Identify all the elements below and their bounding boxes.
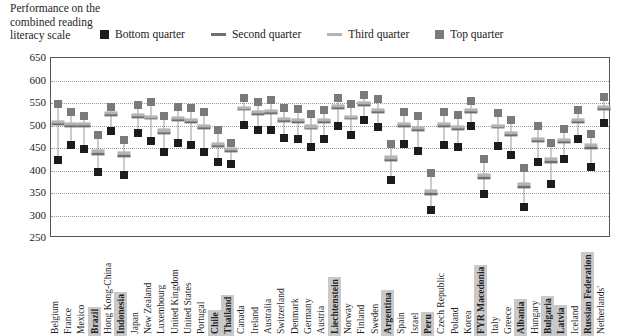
data-column[interactable] xyxy=(491,58,504,238)
data-column[interactable] xyxy=(171,58,184,238)
x-tick-label[interactable]: Iceland xyxy=(568,304,581,336)
x-tick-label[interactable]: Peru xyxy=(421,312,434,336)
marker-bottom-quarter xyxy=(400,140,408,148)
marker-third-quarter xyxy=(424,189,437,192)
x-tick-label[interactable]: Latvia xyxy=(554,305,567,336)
plot-area xyxy=(50,57,610,237)
data-column[interactable] xyxy=(158,58,171,238)
x-tick-label[interactable]: Chile xyxy=(208,310,221,336)
data-column[interactable] xyxy=(64,58,77,238)
x-tick-label[interactable]: Bulgaria xyxy=(541,296,554,336)
data-column[interactable] xyxy=(144,58,157,238)
x-tick-label[interactable]: Albania xyxy=(514,299,527,336)
x-tick-label[interactable]: Greece xyxy=(501,305,514,336)
x-tick-label[interactable]: Argentina xyxy=(381,290,394,336)
x-tick-label[interactable]: Korea xyxy=(461,309,474,336)
x-tick-label[interactable]: Mexico xyxy=(74,303,87,336)
x-tick-label[interactable]: Russian Federation xyxy=(581,252,594,336)
x-tick-label[interactable]: Japan xyxy=(128,310,141,336)
data-column[interactable] xyxy=(318,58,331,238)
data-column[interactable] xyxy=(131,58,144,238)
x-tick-label[interactable]: Israel xyxy=(408,311,421,336)
x-tick-label[interactable]: Ireland xyxy=(248,305,261,336)
x-tick-label[interactable]: Hungary xyxy=(528,298,541,336)
data-column[interactable] xyxy=(118,58,131,238)
legend-third-quarter[interactable]: Third quarter xyxy=(327,28,409,40)
data-column[interactable] xyxy=(504,58,517,238)
marker-third-quarter xyxy=(438,123,451,126)
x-tick-label[interactable]: Netherlands' xyxy=(594,284,607,336)
x-tick-label[interactable]: Portugal xyxy=(194,299,207,336)
data-column[interactable] xyxy=(238,58,251,238)
data-column[interactable] xyxy=(478,58,491,238)
marker-top-quarter xyxy=(160,112,168,120)
data-column[interactable] xyxy=(344,58,357,238)
x-tick-label[interactable]: Thailand xyxy=(221,295,234,336)
data-column[interactable] xyxy=(558,58,571,238)
data-column[interactable] xyxy=(104,58,117,238)
x-tick-label[interactable]: Canada xyxy=(234,303,247,336)
x-tick-label[interactable]: Finland xyxy=(354,303,367,336)
x-tick-label[interactable]: Belgium xyxy=(48,299,61,336)
data-column[interactable] xyxy=(598,58,611,238)
data-column[interactable] xyxy=(251,58,264,238)
data-column[interactable] xyxy=(51,58,64,238)
data-column[interactable] xyxy=(184,58,197,238)
x-tick-label[interactable]: Italy xyxy=(488,314,501,336)
data-column[interactable] xyxy=(424,58,437,238)
data-column[interactable] xyxy=(91,58,104,238)
x-tick-label[interactable]: Germany xyxy=(301,296,314,336)
data-column[interactable] xyxy=(531,58,544,238)
x-tick-label[interactable]: United States xyxy=(181,281,194,336)
data-column[interactable] xyxy=(78,58,91,238)
x-tick-label[interactable]: Australia xyxy=(261,297,274,336)
x-tick-label[interactable]: Poland xyxy=(448,305,461,336)
y-axis-labels: 650600550500450400350300250 xyxy=(0,57,46,237)
data-column[interactable] xyxy=(411,58,424,238)
data-column[interactable] xyxy=(518,58,531,238)
data-column[interactable] xyxy=(304,58,317,238)
x-tick-label[interactable]: Norway xyxy=(341,301,354,336)
marker-bottom-quarter xyxy=(454,143,462,151)
marker-third-quarter xyxy=(198,124,211,127)
data-column[interactable] xyxy=(571,58,584,238)
x-tick-label[interactable]: Hong Kong-China xyxy=(101,261,114,336)
data-column[interactable] xyxy=(438,58,451,238)
data-column[interactable] xyxy=(211,58,224,238)
legend-top-quarter[interactable]: Top quarter xyxy=(435,28,503,40)
legend-second-quarter[interactable]: Second quarter xyxy=(211,28,301,40)
data-column[interactable] xyxy=(544,58,557,238)
x-tick-label[interactable]: Switzerland xyxy=(274,286,287,336)
x-tick-label[interactable]: Luxembourg xyxy=(154,283,167,336)
x-tick-label[interactable]: Liechtenstein xyxy=(328,277,341,336)
data-column[interactable] xyxy=(384,58,397,238)
y-tick-label: 650 xyxy=(2,52,46,62)
x-tick-label[interactable]: Indonesia xyxy=(114,292,127,336)
legend-bottom-quarter[interactable]: Bottom quarter xyxy=(100,28,185,40)
marker-bottom-quarter xyxy=(227,160,235,168)
x-tick-label[interactable]: Sweden xyxy=(368,302,381,336)
data-column[interactable] xyxy=(278,58,291,238)
marker-top-quarter xyxy=(414,112,422,120)
x-tick-label[interactable]: Brazil xyxy=(88,307,101,336)
data-column[interactable] xyxy=(451,58,464,238)
data-column[interactable] xyxy=(464,58,477,238)
x-tick-label[interactable]: Spain xyxy=(394,310,407,336)
data-column[interactable] xyxy=(264,58,277,238)
data-column[interactable] xyxy=(331,58,344,238)
data-column[interactable] xyxy=(584,58,597,238)
data-column[interactable] xyxy=(398,58,411,238)
x-tick-label[interactable]: New Zealand xyxy=(141,281,154,336)
data-column[interactable] xyxy=(291,58,304,238)
x-tick-label[interactable]: FYR Macedonia xyxy=(474,265,487,336)
x-tick-label[interactable]: France xyxy=(61,306,74,336)
data-column[interactable] xyxy=(358,58,371,238)
x-tick-label[interactable]: United Kingdom xyxy=(168,267,181,336)
data-column[interactable] xyxy=(198,58,211,238)
data-column[interactable] xyxy=(224,58,237,238)
x-tick-label[interactable]: Austria xyxy=(314,304,327,336)
marker-top-quarter xyxy=(94,131,102,139)
x-tick-label[interactable]: Czech Republic xyxy=(434,271,447,336)
data-column[interactable] xyxy=(371,58,384,238)
x-tick-label[interactable]: Denmark xyxy=(288,296,301,336)
